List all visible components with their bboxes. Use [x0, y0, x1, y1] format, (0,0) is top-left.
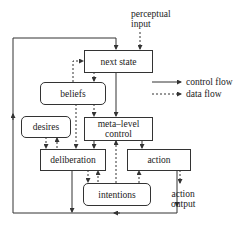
meta-level-control-label: meta–level control: [94, 119, 144, 139]
desires-label: desires: [33, 122, 59, 132]
desires-node: desires: [21, 116, 71, 138]
action-output-line2: output: [171, 199, 195, 209]
action-node: action: [127, 149, 191, 171]
meta-level-control-node: meta–level control: [84, 117, 153, 141]
action-label: action: [147, 155, 170, 165]
next-state-label: next state: [100, 57, 136, 67]
perceptual-input-line1: perceptual: [131, 9, 171, 19]
legend-data-flow: data flow: [186, 89, 222, 99]
next-state-node: next state: [84, 50, 153, 73]
perceptual-input-label: perceptual input: [131, 9, 171, 29]
intentions-node: intentions: [83, 183, 151, 206]
legend-control-flow: control flow: [186, 77, 233, 87]
agent-architecture-diagram: perceptual input next state beliefs desi…: [0, 0, 244, 231]
action-output-line1: action: [171, 189, 195, 199]
deliberation-node: deliberation: [40, 149, 106, 171]
beliefs-node: beliefs: [40, 82, 106, 105]
intentions-label: intentions: [98, 190, 135, 200]
perceptual-input-line2: input: [131, 19, 171, 29]
deliberation-label: deliberation: [50, 155, 95, 165]
action-output-label: action output: [171, 189, 195, 209]
beliefs-label: beliefs: [60, 89, 85, 99]
